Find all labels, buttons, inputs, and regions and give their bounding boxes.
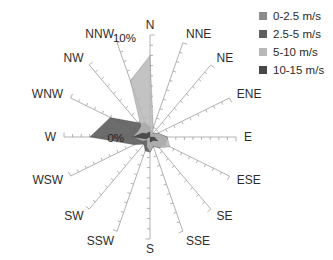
direction-label-SW: SW: [64, 209, 84, 223]
spoke-tick: [207, 209, 210, 212]
spoke-tick: [86, 206, 89, 209]
spoke-tick: [180, 153, 181, 156]
spoke-tick: [211, 65, 214, 68]
spoke-tick: [190, 117, 191, 120]
spoke-tick: [173, 212, 176, 213]
axis-max-label: 10%: [113, 32, 136, 44]
spoke-tick: [69, 172, 71, 176]
spoke-tick: [105, 186, 107, 188]
direction-label-ESE: ESE: [237, 173, 261, 187]
spoke-tick: [124, 202, 127, 203]
legend-label: 0-2.5 m/s: [273, 10, 321, 22]
spoke-tick: [202, 202, 204, 204]
spoke-tick: [163, 99, 166, 100]
spoke-tick: [173, 149, 174, 152]
spoke-tick: [125, 146, 126, 149]
spoke-tick: [183, 43, 187, 44]
spoke-tick: [160, 109, 163, 110]
spoke-tick: [188, 157, 189, 160]
spoke-tick: [166, 90, 169, 91]
direction-label-ENE: ENE: [237, 87, 262, 101]
spoke-tick: [113, 230, 117, 231]
spoke-tick: [126, 106, 128, 108]
spoke-tick: [156, 130, 158, 132]
spoke-tick: [137, 164, 140, 165]
legend-swatch: [259, 48, 267, 56]
direction-label-NE: NE: [217, 51, 234, 65]
spoke-tick: [182, 121, 183, 124]
spoke-tick: [220, 172, 221, 175]
direction-label-SE: SE: [217, 209, 233, 223]
spoke-tick: [166, 129, 167, 132]
spoke-tick: [196, 160, 197, 163]
spoke-tick: [193, 87, 195, 89]
spoke-tick: [77, 169, 78, 172]
spoke-tick: [101, 77, 103, 79]
direction-label-S: S: [146, 242, 154, 256]
spoke-tick: [160, 175, 163, 176]
spoke-tick: [123, 164, 125, 166]
spoke-tick: [177, 222, 180, 223]
direction-label-WSW: WSW: [33, 173, 64, 187]
spoke-tick: [121, 211, 124, 212]
spoke-tick: [229, 98, 231, 102]
spoke-tick: [124, 61, 127, 62]
windrose-figure: NNNENEENEEESESESSESSSWSWWSWWWNWNWNNW10%0…: [0, 0, 333, 260]
spoke-tick: [206, 110, 207, 113]
spoke-tick: [186, 94, 188, 96]
spoke-tick: [166, 159, 168, 161]
spoke-tick: [89, 62, 92, 65]
spoke-tick: [154, 156, 157, 157]
spoke-tick: [184, 180, 186, 182]
spoke-tick: [212, 168, 213, 171]
spoke-tick: [71, 94, 73, 98]
spoke-tick: [141, 155, 144, 156]
spoke-tick: [118, 221, 121, 222]
legend-label: 2.5-5 m/s: [273, 28, 321, 40]
spoke-tick: [153, 128, 156, 129]
spoke-tick: [190, 187, 192, 189]
spoke-tick: [180, 101, 182, 103]
spoke-tick: [78, 99, 79, 102]
spoke-tick: [85, 166, 86, 169]
spoke-tick: [157, 118, 160, 119]
spoke-tick: [94, 107, 95, 110]
spoke-tick: [102, 111, 103, 114]
direction-label-NNW: NNW: [85, 27, 114, 41]
spoke-tick: [214, 106, 215, 109]
legend-item: 2.5-5 m/s: [259, 28, 324, 40]
legend-swatch: [259, 12, 267, 20]
legend-swatch: [259, 30, 267, 38]
legend: 0-2.5 m/s 2.5-5 m/s 5-10 m/s 10-15 m/s: [259, 10, 324, 76]
spoke-tick: [95, 70, 97, 72]
spoke-tick: [164, 184, 167, 185]
spoke-tick: [120, 51, 123, 52]
spoke-tick: [134, 174, 137, 175]
spoke-tick: [93, 200, 95, 202]
legend-label: 5-10 m/s: [273, 46, 318, 58]
spoke-tick: [172, 166, 174, 168]
spoke-tick: [132, 113, 134, 115]
spoke-tick: [86, 103, 87, 106]
spoke-tick: [179, 231, 183, 232]
direction-label-NW: NW: [64, 51, 85, 65]
spoke-tick: [117, 171, 119, 173]
spoke-tick: [109, 154, 110, 157]
spoke-tick: [167, 194, 170, 195]
spoke-tick: [110, 115, 111, 118]
direction-label-SSE: SSE: [186, 234, 210, 248]
spoke-tick: [117, 150, 118, 153]
legend-item: 5-10 m/s: [259, 46, 324, 58]
spoke-tick: [101, 158, 102, 161]
direction-label-NNE: NNE: [186, 27, 211, 41]
spoke-tick: [107, 85, 109, 87]
direction-label-SSW: SSW: [87, 234, 115, 248]
spoke-tick: [174, 125, 175, 128]
spoke-tick: [157, 165, 160, 166]
spoke-tick: [127, 70, 130, 71]
legend-item: 0-2.5 m/s: [259, 10, 324, 22]
direction-label-W: W: [45, 130, 57, 144]
spoke-tick: [111, 178, 113, 180]
direction-label-E: E: [244, 130, 252, 144]
spoke-tick: [127, 193, 130, 194]
